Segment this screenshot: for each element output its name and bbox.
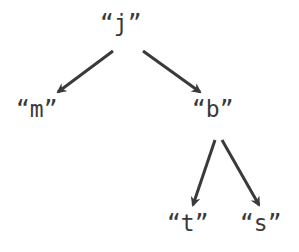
node-j: “j”	[100, 12, 142, 35]
edge-j-b	[143, 51, 200, 92]
node-b: “b”	[192, 98, 234, 121]
node-s: “s”	[240, 212, 282, 235]
edge-b-t	[193, 140, 215, 205]
edge-b-s	[222, 140, 259, 205]
node-m: “m”	[16, 98, 58, 121]
node-t: “t”	[167, 212, 209, 235]
edge-j-m	[58, 51, 113, 92]
